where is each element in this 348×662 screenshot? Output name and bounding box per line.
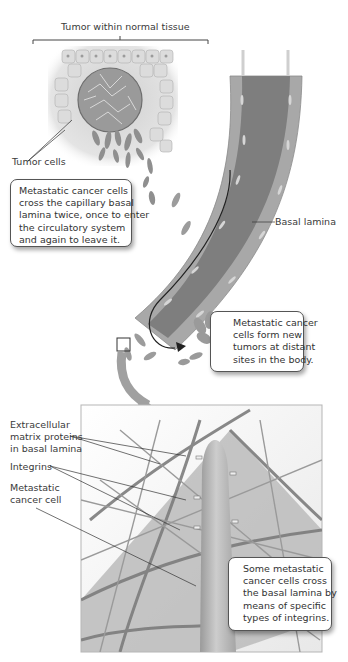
tumor-region-bracket (33, 36, 208, 44)
callout-new-tumors: Metastatic cancer cells form new tumors … (210, 311, 304, 372)
callout-cross-basal-lamina-twice: Metastatic cancer cells cross the capill… (10, 179, 132, 247)
label-basal-lamina: Basal lamina (275, 216, 336, 228)
label-integrins: Integrins (10, 461, 52, 473)
metastasis-diagram: Tumor within normal tissue Tumor cells B… (0, 0, 348, 662)
callout-integrin-crossing: Some metastatic cancer cells cross the b… (228, 557, 332, 631)
label-tumor-cells: Tumor cells (12, 156, 66, 168)
label-tumor-within-normal-tissue: Tumor within normal tissue (61, 21, 190, 33)
label-extracellular-matrix-proteins: Extracellular matrix proteins in basal l… (10, 419, 83, 455)
label-metastatic-cancer-cell: Metastatic cancer cell (10, 482, 61, 506)
